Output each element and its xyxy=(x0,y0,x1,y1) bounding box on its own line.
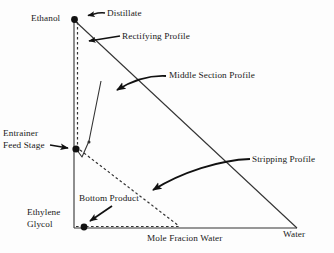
entrainer-feed-point xyxy=(72,145,79,152)
bottom-product-leader-arrow xyxy=(90,206,112,221)
middle-section-stage-point xyxy=(88,141,91,144)
x-axis-label: Mole Fracion Water xyxy=(147,233,222,244)
distillate-point xyxy=(71,16,78,23)
vertex-label-ethanol: Ethanol xyxy=(31,13,60,24)
annotation-label-middle-section-profile: Middle Section Profile xyxy=(169,70,255,81)
annotation-label-rectifying-profile: Rectifying Profile xyxy=(122,31,190,42)
stripping-leader-arrow xyxy=(153,159,250,190)
middle-section-profile-curve xyxy=(77,81,102,157)
annotation-label-bottom-product: Bottom Product xyxy=(79,193,139,204)
vertex-label-ethylene-glycol: Ethylene Glycol xyxy=(27,207,60,230)
distillate-leader-arrow xyxy=(88,13,105,16)
annotation-label-entrainer-feed-stage: Entrainer Feed Stage xyxy=(3,128,45,151)
annotation-label-stripping-profile: Stripping Profile xyxy=(252,154,315,165)
entrainer-feed-leader-arrow xyxy=(50,145,68,148)
stripping-profile-curve xyxy=(80,150,179,226)
bottom-product-point xyxy=(81,224,88,231)
diagram-canvas: Ethanol Distillate Rectifying Profile Mi… xyxy=(0,0,334,253)
vertex-label-water: Water xyxy=(283,229,305,240)
annotation-label-distillate: Distillate xyxy=(107,8,142,19)
